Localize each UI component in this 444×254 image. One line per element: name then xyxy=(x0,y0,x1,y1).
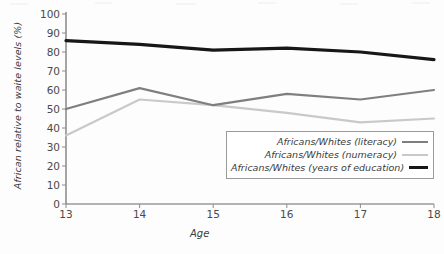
legend-item: Africans/Whites (years of education) xyxy=(231,161,429,174)
x-tick-label: 17 xyxy=(348,208,372,220)
legend-label: Africans/Whites (literacy) xyxy=(277,136,397,147)
legend-item: Africans/Whites (literacy) xyxy=(231,135,429,148)
x-tick-label: 18 xyxy=(422,208,444,220)
x-tick-label: 13 xyxy=(54,208,78,220)
x-tick-label: 15 xyxy=(201,208,225,220)
series-line-education xyxy=(66,41,434,60)
chart-legend: Africans/Whites (literacy)Africans/White… xyxy=(226,131,434,179)
legend-label: Africans/Whites (numeracy) xyxy=(265,149,397,160)
series-line-literacy xyxy=(66,88,434,109)
x-tick-label: 14 xyxy=(128,208,152,220)
legend-item: Africans/Whites (numeracy) xyxy=(231,148,429,161)
legend-swatch xyxy=(402,141,428,143)
legend-swatch xyxy=(409,166,428,169)
legend-label: Africans/Whites (years of education) xyxy=(231,162,404,173)
x-tick-label: 16 xyxy=(275,208,299,220)
chart-figure: African relative to waite levels (%) Age… xyxy=(0,0,444,254)
legend-swatch xyxy=(402,154,428,156)
